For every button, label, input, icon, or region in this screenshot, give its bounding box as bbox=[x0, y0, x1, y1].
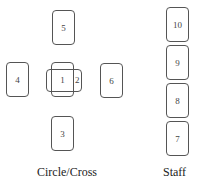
card-label: 3 bbox=[60, 129, 65, 139]
card-8: 8 bbox=[166, 83, 189, 118]
group-label-staff: Staff bbox=[163, 165, 186, 180]
card-label: 5 bbox=[61, 23, 66, 33]
card-10: 10 bbox=[166, 7, 189, 42]
card-label: 8 bbox=[175, 96, 180, 106]
card-2-label: 2 bbox=[75, 75, 80, 85]
card-6: 6 bbox=[100, 63, 123, 98]
card-label: 4 bbox=[15, 75, 20, 85]
card-7: 7 bbox=[166, 121, 189, 156]
card-label: 6 bbox=[109, 76, 114, 86]
card-label: 7 bbox=[175, 134, 180, 144]
card-label: 9 bbox=[175, 58, 180, 68]
card-5: 5 bbox=[52, 10, 75, 45]
group-label-circle-cross: Circle/Cross bbox=[37, 165, 97, 180]
card-4: 4 bbox=[6, 62, 29, 97]
card-3: 3 bbox=[51, 116, 74, 151]
card-9: 9 bbox=[166, 45, 189, 80]
card-label: 10 bbox=[173, 20, 182, 30]
